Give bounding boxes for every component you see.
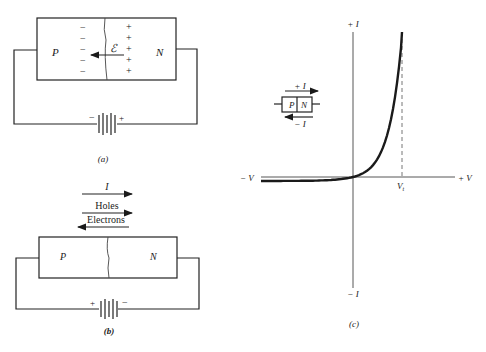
pos-v-axis-label: + V [458, 173, 473, 183]
svg-text:+: + [126, 54, 132, 65]
threshold-label: Vt [397, 181, 405, 192]
inset-n-label: N [300, 100, 308, 110]
caption-a: (a) [98, 154, 109, 164]
battery-b: + − [90, 297, 128, 319]
battery-plus-b: + [90, 298, 95, 308]
diode-figure: P N − − − − − + + + + + ℰ − + (a) [0, 0, 486, 352]
junction-boundary-b [107, 237, 109, 278]
svg-text:+: + [126, 21, 132, 32]
battery-minus-b: − [122, 297, 128, 308]
n-region-label-b: N [149, 251, 158, 262]
svg-text:+: + [126, 43, 132, 54]
svg-text:+: + [126, 65, 132, 76]
positive-charges: + + + + + [126, 21, 132, 76]
battery-minus-a: − [89, 112, 95, 123]
figure-b-forward-bias: I Holes Electrons P N + − (b) [16, 181, 199, 336]
negative-charges: − − − − − [80, 22, 86, 77]
electric-field-label: ℰ [110, 42, 118, 54]
battery-plus-a: + [119, 113, 124, 123]
inset-neg-i-label: − I [294, 119, 306, 129]
p-region-label-b: P [59, 251, 66, 262]
electrons-label: Electrons [87, 214, 125, 225]
neg-v-axis-label: − V [240, 173, 255, 183]
svg-text:+: + [126, 32, 132, 43]
svg-text:−: − [80, 44, 86, 55]
junction-boundary-a [104, 18, 107, 80]
svg-text:−: − [80, 55, 86, 66]
svg-text:−: − [80, 22, 86, 33]
p-region-label-a: P [51, 46, 59, 58]
holes-label: Holes [95, 200, 118, 211]
pos-i-axis-label: + I [347, 19, 359, 29]
neg-i-axis-label: − I [347, 289, 359, 299]
figure-a-reverse-bias: P N − − − − − + + + + + ℰ − + (a) [14, 18, 197, 164]
circuit-wire-b [16, 258, 199, 309]
svg-text:−: − [80, 33, 86, 44]
figure-c-iv-curve: + I P N − I + I − I − V + V Vt (c) [240, 19, 473, 329]
inset-p-label: P [288, 100, 295, 110]
inset-pos-i-label: + I [294, 81, 306, 91]
svg-text:−: − [80, 66, 86, 77]
caption-b: (b) [104, 326, 115, 336]
n-region-label-a: N [155, 46, 164, 58]
caption-c: (c) [349, 319, 359, 329]
current-label-b: I [104, 181, 109, 192]
diode-inset: + I P N − I [274, 81, 320, 129]
